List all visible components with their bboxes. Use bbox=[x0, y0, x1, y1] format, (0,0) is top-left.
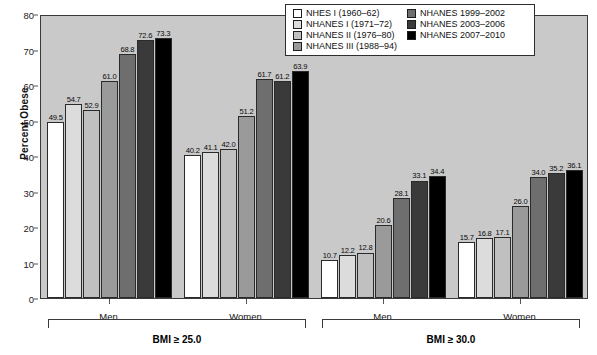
legend-swatch-icon bbox=[293, 20, 302, 29]
y-tick-mark bbox=[34, 15, 38, 16]
bar-value-label: 49.5 bbox=[49, 114, 63, 122]
bar-value-label: 10.7 bbox=[323, 252, 337, 260]
legend-item[interactable]: NHANES 2007–2010 bbox=[407, 31, 505, 40]
y-tick-label: 0 bbox=[0, 294, 34, 305]
bar-value-label: 68.8 bbox=[120, 46, 134, 54]
legend-item[interactable]: NHES I (1960–62) bbox=[293, 9, 397, 18]
y-tick-label: 50 bbox=[0, 116, 34, 127]
bar: 72.6 bbox=[137, 40, 154, 298]
legend-label: NHES I (1960–62) bbox=[306, 9, 380, 18]
legend-column-left: NHES I (1960–62)NHANES I (1971–72)NHANES… bbox=[293, 9, 397, 51]
bar-value-label: 12.8 bbox=[359, 244, 373, 252]
y-tick-label: 70 bbox=[0, 45, 34, 56]
x-tick-mark bbox=[246, 299, 247, 304]
legend-item[interactable]: NHANES III (1988–94) bbox=[293, 42, 397, 51]
bar-value-label: 61.0 bbox=[102, 73, 116, 81]
legend-swatch-icon bbox=[293, 42, 302, 51]
legend-item[interactable]: NHANES II (1976–80) bbox=[293, 31, 397, 40]
y-tick-mark bbox=[34, 50, 38, 51]
bar: 12.2 bbox=[339, 255, 356, 298]
bar-value-label: 36.1 bbox=[567, 162, 581, 170]
bar: 15.7 bbox=[458, 242, 475, 298]
y-axis-ticks: 01020304050607080 bbox=[0, 0, 34, 355]
bar-value-label: 54.7 bbox=[67, 96, 81, 104]
legend-column-right: NHANES 1999–2002NHANES 2003–2006NHANES 2… bbox=[407, 9, 505, 51]
bmi-threshold-label: BMI ≥ 25.0 bbox=[153, 334, 202, 345]
plot-area: 49.554.752.961.068.872.673.340.241.142.0… bbox=[40, 15, 588, 299]
bar: 26.0 bbox=[512, 206, 529, 298]
legend: NHES I (1960–62)NHANES I (1971–72)NHANES… bbox=[285, 4, 535, 56]
bar: 10.7 bbox=[321, 260, 338, 298]
legend-item[interactable]: NHANES 2003–2006 bbox=[407, 20, 505, 29]
bar: 34.4 bbox=[429, 176, 446, 298]
y-tick-mark bbox=[34, 263, 38, 264]
bar: 20.6 bbox=[375, 225, 392, 298]
bar-value-label: 40.2 bbox=[186, 147, 200, 155]
bar: 34.0 bbox=[530, 177, 547, 298]
bar: 51.2 bbox=[238, 116, 255, 298]
bar: 40.2 bbox=[184, 155, 201, 298]
bar: 61.0 bbox=[101, 81, 118, 298]
bar-value-label: 26.0 bbox=[513, 198, 527, 206]
bar-value-label: 63.9 bbox=[293, 63, 307, 71]
y-tick-label: 20 bbox=[0, 223, 34, 234]
legend-label: NHANES 2007–2010 bbox=[420, 31, 505, 40]
legend-swatch-icon bbox=[293, 31, 302, 40]
bmi-threshold-label: BMI ≥ 30.0 bbox=[427, 334, 476, 345]
bar: 49.5 bbox=[47, 122, 64, 298]
bar: 63.9 bbox=[292, 71, 309, 298]
legend-swatch-icon bbox=[293, 9, 302, 18]
legend-swatch-icon bbox=[407, 31, 416, 40]
bar: 73.3 bbox=[155, 38, 172, 298]
bar: 28.1 bbox=[393, 198, 410, 298]
y-tick-mark bbox=[34, 299, 38, 300]
bar: 61.2 bbox=[274, 81, 291, 298]
bar-value-label: 20.6 bbox=[376, 217, 390, 225]
bar: 61.7 bbox=[256, 79, 273, 298]
bar: 16.8 bbox=[476, 238, 493, 298]
legend-item[interactable]: NHANES I (1971–72) bbox=[293, 20, 397, 29]
y-tick-label: 40 bbox=[0, 152, 34, 163]
bar-value-label: 17.1 bbox=[496, 229, 510, 237]
bar-value-label: 34.4 bbox=[430, 168, 444, 176]
y-tick-mark bbox=[34, 86, 38, 87]
legend-label: NHANES I (1971–72) bbox=[306, 20, 392, 29]
bar: 68.8 bbox=[119, 54, 136, 298]
bar-value-label: 15.7 bbox=[460, 234, 474, 242]
bar-value-label: 52.9 bbox=[85, 102, 99, 110]
bar: 41.1 bbox=[202, 152, 219, 298]
y-tick-mark bbox=[34, 228, 38, 229]
bar-value-label: 73.3 bbox=[156, 30, 170, 38]
y-tick-label: 80 bbox=[0, 10, 34, 21]
bar-chart: Percent Obese 01020304050607080 49.554.7… bbox=[0, 0, 597, 355]
legend-label: NHANES 1999–2002 bbox=[420, 9, 505, 18]
y-tick-label: 30 bbox=[0, 187, 34, 198]
bar-value-label: 33.1 bbox=[412, 172, 426, 180]
bar-value-label: 34.0 bbox=[531, 169, 545, 177]
bar: 36.1 bbox=[566, 170, 583, 298]
y-tick-mark bbox=[34, 192, 38, 193]
bar-value-label: 12.2 bbox=[341, 247, 355, 255]
y-tick-mark bbox=[34, 121, 38, 122]
bar: 52.9 bbox=[83, 110, 100, 298]
bar: 12.8 bbox=[357, 253, 374, 298]
bar-value-label: 72.6 bbox=[138, 32, 152, 40]
legend-swatch-icon bbox=[407, 9, 416, 18]
legend-item[interactable]: NHANES 1999–2002 bbox=[407, 9, 505, 18]
panel-bracket bbox=[322, 319, 580, 328]
bar-value-label: 42.0 bbox=[222, 141, 236, 149]
bar: 35.2 bbox=[548, 173, 565, 298]
bar-value-label: 16.8 bbox=[478, 230, 492, 238]
bar: 42.0 bbox=[220, 149, 237, 298]
bar-value-label: 51.2 bbox=[239, 108, 253, 116]
y-tick-label: 10 bbox=[0, 258, 34, 269]
bar: 17.1 bbox=[494, 237, 511, 298]
legend-label: NHANES II (1976–80) bbox=[306, 31, 395, 40]
bar: 33.1 bbox=[411, 181, 428, 299]
legend-label: NHANES III (1988–94) bbox=[306, 42, 397, 51]
bar-value-label: 61.2 bbox=[275, 73, 289, 81]
bar-value-label: 28.1 bbox=[394, 190, 408, 198]
legend-label: NHANES 2003–2006 bbox=[420, 20, 505, 29]
bar-value-label: 61.7 bbox=[257, 71, 271, 79]
bar-value-label: 41.1 bbox=[204, 144, 218, 152]
